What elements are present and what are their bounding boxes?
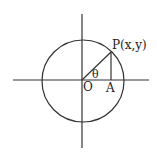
angle-theta-label: θ: [92, 68, 99, 81]
unit-circle-diagram: P(x,y) θ O A: [0, 0, 157, 162]
origin-o-label: O: [83, 80, 93, 94]
point-p-label: P(x,y): [112, 38, 147, 52]
point-a-label: A: [105, 81, 115, 95]
